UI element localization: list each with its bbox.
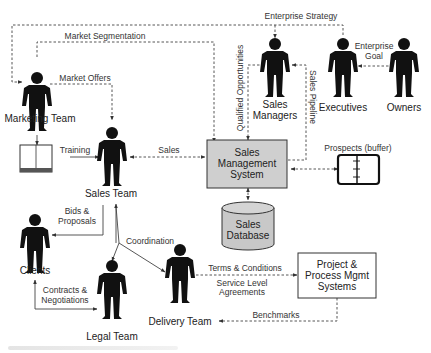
prospects-label: Prospects (buffer) <box>324 143 392 153</box>
legal-team-figure <box>97 260 127 319</box>
enterprise-goal-label-1: Enterprise <box>355 41 394 51</box>
ppm-label-1: Project & <box>317 259 358 270</box>
bids-proposals-label-1: Bids & <box>65 206 90 216</box>
ppm-label-3: Systems <box>318 281 356 292</box>
sms-label-3: System <box>230 169 263 180</box>
sales-team-figure <box>97 127 127 186</box>
contracts-negotiations-label-1: Contracts & <box>43 285 88 295</box>
training-label: Training <box>60 145 91 155</box>
sales-managers-label-2: Managers <box>253 110 297 121</box>
sms-label-1: Sales <box>234 147 259 158</box>
enterprise-goal-label-2: Goal <box>365 51 383 61</box>
edge-coordination-delivery <box>119 243 165 272</box>
service-level-label-2: Agreements <box>219 287 265 297</box>
sales-managers-figure <box>260 38 290 97</box>
edge-coordination-legal <box>112 243 119 261</box>
db-label-2: Database <box>227 230 270 241</box>
qualified-opportunities-label: Qualified Opportunities <box>235 45 245 131</box>
market-offers-label: Market Offers <box>59 73 110 83</box>
ppm-label-2: Process Mgmt <box>305 270 369 281</box>
edge-market-segmentation <box>37 42 214 142</box>
legal-team-label: Legal Team <box>86 331 138 342</box>
benchmarks-label: Benchmarks <box>252 310 299 320</box>
executives-figure <box>328 38 358 97</box>
faint-caption <box>8 346 178 350</box>
enterprise-strategy-label: Enterprise Strategy <box>265 11 339 21</box>
owners-label: Owners <box>387 102 421 113</box>
training-book-icon <box>20 145 52 172</box>
coordination-label: Coordination <box>126 236 174 246</box>
delivery-team-figure <box>165 244 195 303</box>
owners-figure <box>389 38 419 97</box>
market-segmentation-label: Market Segmentation <box>65 31 146 41</box>
prospects-notebook-icon <box>338 155 379 184</box>
marketing-team-label: Marketing Team <box>5 113 76 124</box>
sales-managers-label-1: Sales <box>262 99 287 110</box>
sales-label: Sales <box>158 145 179 155</box>
terms-conditions-label: Terms & Conditions <box>208 263 282 273</box>
sms-label-2: Management <box>218 158 277 169</box>
db-label-1: Sales <box>235 219 260 230</box>
contracts-negotiations-label-2: Negotiations <box>41 295 88 305</box>
clients-label: Clients <box>20 265 51 276</box>
delivery-team-label: Delivery Team <box>148 316 211 327</box>
bids-proposals-label-2: Proposals <box>58 216 96 226</box>
sales-ecosystem-diagram: Sales Management System Sales Database P… <box>0 0 431 353</box>
sales-pipeline-label: Sales Pipeline <box>308 70 318 124</box>
sales-team-label: Sales Team <box>85 188 137 199</box>
executives-label: Executives <box>319 102 367 113</box>
